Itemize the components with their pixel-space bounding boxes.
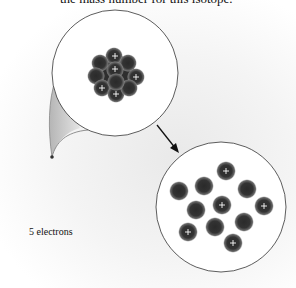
atom-diagram [0, 0, 296, 288]
atom-point-icon [50, 155, 54, 159]
upper-nucleus-circle [52, 10, 178, 136]
electron-count-label: 5 electrons [29, 226, 73, 237]
lower-nucleus-circle [156, 142, 286, 272]
arrow-icon [157, 125, 179, 153]
